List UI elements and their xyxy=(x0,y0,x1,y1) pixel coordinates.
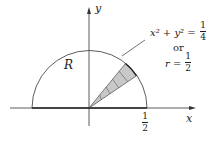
x-tick-label-half: 1 2 xyxy=(142,112,148,133)
annotation-polar-rhs: 1 2 xyxy=(185,52,191,73)
annotation-leader-line xyxy=(122,40,145,56)
diagram-canvas xyxy=(0,0,218,149)
x-axis-arrow-icon xyxy=(189,106,196,110)
x-axis-label: x xyxy=(186,112,192,125)
annotation-connector: or xyxy=(173,42,184,53)
polar-region-diagram: R y x 1 2 x² + y² = 1 4 or r = 1 2 xyxy=(0,0,218,149)
annotation-polar-equation: r = xyxy=(165,58,181,69)
annotation-equation-rhs: 1 4 xyxy=(200,21,206,42)
y-axis-arrow-icon xyxy=(87,7,91,14)
polar-wedge xyxy=(89,64,137,109)
y-axis-label: y xyxy=(95,2,101,15)
region-label: R xyxy=(64,58,73,72)
annotation-cartesian-equation: x² + y² = xyxy=(150,27,196,38)
